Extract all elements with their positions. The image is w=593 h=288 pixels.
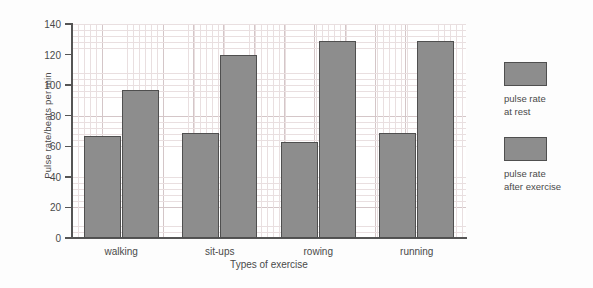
- y-axis-tick-label: 20: [50, 202, 61, 213]
- chart-legend: pulse rate at restpulse rate after exerc…: [504, 62, 590, 212]
- bar: [182, 133, 219, 238]
- x-axis-category-label: sit-ups: [205, 246, 234, 257]
- y-axis-tick: [65, 54, 72, 55]
- bar: [220, 55, 257, 238]
- y-axis-tick-label: 80: [50, 110, 61, 121]
- y-axis-tick: [65, 23, 72, 24]
- x-axis-category-label: running: [400, 246, 433, 257]
- legend-swatch: [504, 137, 547, 161]
- legend-label: pulse rate after exercise: [504, 168, 590, 193]
- y-axis-tick: [65, 176, 72, 177]
- bar-chart-figure: Pulse rate/beats per min 020406080100120…: [0, 0, 593, 288]
- y-axis-tick: [65, 115, 72, 116]
- y-axis-tick: [65, 207, 72, 208]
- x-axis-category-label: walking: [105, 246, 138, 257]
- legend-swatch: [504, 62, 547, 86]
- bar: [84, 136, 121, 238]
- y-axis-tick-label: 100: [44, 80, 61, 91]
- page-background: Pulse rate/beats per min 020406080100120…: [0, 0, 593, 288]
- bar: [417, 41, 454, 238]
- x-axis-title: Types of exercise: [72, 259, 466, 270]
- y-axis-tick-label: 60: [50, 141, 61, 152]
- bar: [319, 41, 356, 238]
- plot-area: [72, 24, 466, 238]
- y-axis-tick: [65, 237, 72, 238]
- x-axis-category-label: rowing: [304, 246, 333, 257]
- bar: [122, 90, 159, 238]
- y-axis-tick-label: 40: [50, 171, 61, 182]
- plot-wrapper: 020406080100120140 walkingsit-upsrowingr…: [72, 24, 466, 238]
- legend-label: pulse rate at rest: [504, 93, 590, 118]
- y-axis-tick: [65, 146, 72, 147]
- legend-item: pulse rate after exercise: [504, 137, 590, 193]
- y-axis-tick-label: 0: [55, 233, 61, 244]
- bar: [379, 133, 416, 238]
- y-axis-tick-label: 140: [44, 19, 61, 30]
- legend-item: pulse rate at rest: [504, 62, 590, 118]
- y-axis-tick-label: 120: [44, 49, 61, 60]
- y-axis-tick: [65, 84, 72, 85]
- bar: [281, 142, 318, 238]
